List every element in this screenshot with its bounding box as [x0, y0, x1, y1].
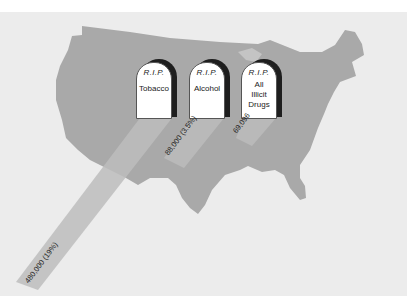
rip-label: R.I.P.	[137, 68, 171, 77]
rip-label: R.I.P.	[242, 68, 276, 77]
cause-line: Drugs	[242, 100, 276, 110]
cause-label: Tobacco	[137, 84, 171, 94]
cause-line: Illicit	[242, 90, 276, 100]
tombstone-tobacco: R.I.P. Tobacco	[136, 62, 172, 118]
tombstone-face: R.I.P. All Illicit Drugs	[241, 62, 277, 119]
tombstone-face: R.I.P. Alcohol	[189, 62, 225, 119]
rip-label: R.I.P.	[190, 68, 224, 77]
tombstone-face: R.I.P. Tobacco	[136, 62, 172, 119]
cause-label: All Illicit Drugs	[242, 80, 276, 110]
us-map-diagram	[0, 12, 407, 296]
cause-label: Alcohol	[190, 84, 224, 94]
tombstone-illicit-drugs: R.I.P. All Illicit Drugs	[241, 62, 277, 118]
cause-line: All	[242, 80, 276, 90]
figure-panel: R.I.P. Tobacco R.I.P. Alcohol R.I.P. All…	[0, 12, 407, 296]
tombstone-alcohol: R.I.P. Alcohol	[189, 62, 225, 118]
